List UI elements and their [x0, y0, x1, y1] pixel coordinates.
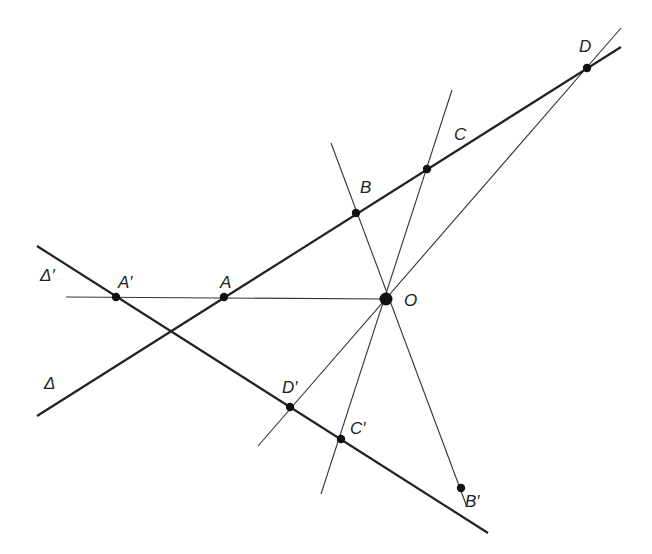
point-B: [352, 209, 360, 217]
projective-diagram: A′AOBCDD′C′B′ Δ′ Δ: [0, 0, 652, 554]
point-label-A-prime: A′: [117, 273, 133, 292]
delta-prime-label: Δ′: [39, 266, 55, 285]
point-D-prime: [286, 403, 294, 411]
line-delta-prime: [37, 246, 488, 533]
point-label-B: B: [360, 178, 371, 197]
line-delta: [37, 47, 621, 416]
delta-label: Δ: [43, 374, 55, 393]
point-label-C-prime: C′: [350, 419, 366, 438]
points-group: A′AOBCDD′C′B′: [112, 37, 591, 511]
point-C-prime: [337, 435, 345, 443]
point-label-D: D: [579, 37, 591, 56]
point-label-A: A: [219, 273, 231, 292]
point-A: [220, 293, 228, 301]
point-O: [380, 293, 393, 306]
point-label-D-prime: D′: [282, 378, 298, 397]
point-B-prime: [457, 484, 465, 492]
line-OC: [321, 90, 452, 494]
line-OB: [331, 143, 467, 507]
point-D: [583, 64, 591, 72]
point-label-O: O: [404, 291, 417, 310]
point-C: [423, 165, 431, 173]
point-label-C: C: [454, 125, 467, 144]
point-A-prime: [112, 293, 120, 301]
point-label-B-prime: B′: [465, 492, 480, 511]
line-OD: [258, 28, 621, 446]
